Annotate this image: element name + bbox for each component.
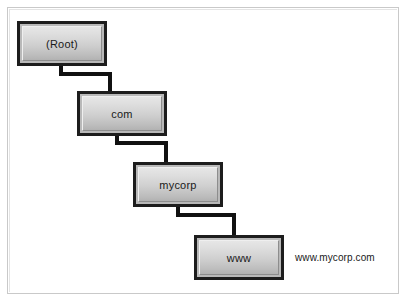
node-www-face: www — [199, 240, 279, 275]
node-root-face: (Root) — [22, 26, 102, 61]
node-www-label: www — [227, 252, 251, 264]
node-com[interactable]: com — [77, 91, 167, 136]
node-com-face: com — [82, 96, 162, 131]
node-mycorp-label: mycorp — [159, 179, 196, 191]
diagram-canvas: (Root) com mycorp www www.mycorp.com — [0, 0, 406, 302]
connector-root-com-horizontal — [59, 72, 112, 76]
node-mycorp-face: mycorp — [138, 167, 218, 202]
node-mycorp[interactable]: mycorp — [133, 162, 223, 207]
fqdn-caption: www.mycorp.com — [295, 252, 375, 263]
node-root-label: (Root) — [46, 38, 78, 50]
node-root[interactable]: (Root) — [17, 21, 107, 66]
connector-com-mycorp-horizontal — [115, 141, 168, 145]
node-com-label: com — [111, 108, 132, 120]
node-www[interactable]: www — [194, 235, 284, 280]
connector-mycorp-www-horizontal — [176, 213, 236, 217]
